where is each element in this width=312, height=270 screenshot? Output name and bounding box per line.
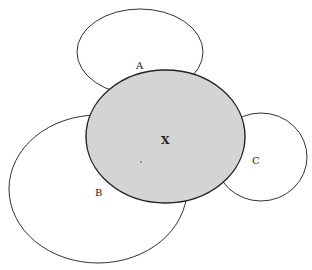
label-a: A	[135, 60, 144, 71]
label-b: B	[95, 187, 102, 198]
venn-diagram: A B C X	[0, 0, 312, 270]
label-x: X	[161, 134, 170, 147]
center-dot	[140, 161, 142, 163]
label-c: C	[252, 155, 260, 166]
